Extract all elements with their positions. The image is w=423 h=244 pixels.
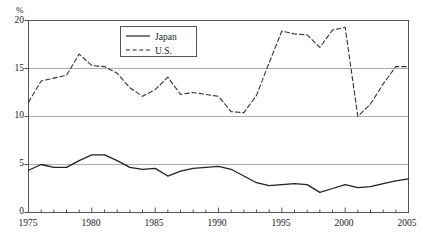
chart-container: % 0 5 10 15 20 1975 1980 1985 1990 1995 … bbox=[0, 0, 423, 244]
series-line-japan bbox=[29, 155, 409, 192]
plot-area: JapanU.S. bbox=[0, 0, 423, 244]
legend-label-us: U.S. bbox=[155, 46, 172, 56]
chart-legend: JapanU.S. bbox=[121, 27, 197, 57]
legend-label-japan: Japan bbox=[155, 32, 177, 42]
data-series bbox=[29, 27, 409, 192]
series-line-us bbox=[29, 27, 409, 116]
gridlines bbox=[29, 69, 409, 165]
